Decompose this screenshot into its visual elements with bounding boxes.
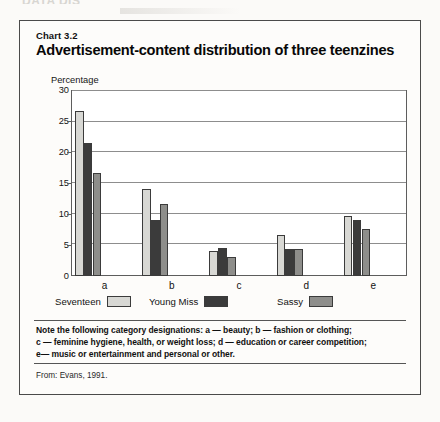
y-axis-tick-label: 25 — [43, 116, 69, 126]
bar-c-sassy — [227, 257, 236, 276]
chart-number-label: Chart 3.2 — [36, 30, 78, 41]
note-divider-bottom — [34, 363, 406, 364]
bar-e-young-miss — [353, 220, 362, 276]
legend-label: Young Miss — [149, 296, 198, 307]
bar-d-seventeen — [277, 235, 286, 276]
bar-c-young-miss — [218, 248, 227, 276]
bar-group: d — [277, 90, 336, 276]
bar-e-sassy — [362, 229, 371, 276]
legend-item-sassy: Sassy — [277, 296, 333, 307]
note-line: Note the following category designations… — [36, 324, 408, 336]
note-line: c — feminine hygiene, health, or weight … — [36, 336, 408, 348]
note-block: Note the following category designations… — [36, 324, 408, 360]
y-axis-tick-label: 20 — [43, 147, 69, 157]
page-title: Advertisement-content distribution of th… — [36, 42, 394, 58]
x-axis-category-label: a — [75, 276, 134, 291]
note-line: e— music or entertainment and personal o… — [36, 348, 408, 360]
y-axis-tick-label: 15 — [43, 178, 69, 188]
bar-b-sassy — [160, 204, 169, 276]
bar-group: c — [209, 90, 268, 276]
x-axis-category-label: c — [209, 276, 268, 291]
x-axis-category-label: e — [344, 276, 403, 291]
y-axis-tick-label: 10 — [43, 209, 69, 219]
bars-layer: abcde — [71, 90, 407, 276]
legend-item-young-miss: Young Miss — [149, 296, 228, 307]
bar-a-sassy — [93, 173, 102, 276]
x-axis-category-label: d — [277, 276, 336, 291]
bar-group: e — [344, 90, 403, 276]
bar-c-seventeen — [209, 251, 218, 276]
y-axis-title: Percentage — [51, 75, 99, 85]
legend-swatch — [204, 296, 228, 307]
chart-plot-wrapper: 051015202530 abcde — [37, 87, 407, 279]
scan-bleed-text: DATA DIS — [22, 0, 80, 4]
legend-label: Sassy — [277, 296, 303, 307]
y-axis-tick-label: 30 — [43, 85, 69, 95]
chart-legend: SeventeenYoung MissSassy — [37, 296, 405, 312]
bar-d-young-miss — [285, 249, 294, 276]
bar-e-seventeen — [344, 216, 353, 276]
source-citation: From: Evans, 1991. — [36, 371, 107, 380]
bar-a-seventeen — [75, 111, 84, 276]
legend-label: Seventeen — [55, 296, 101, 307]
bar-group: a — [75, 90, 134, 276]
bar-a-young-miss — [84, 143, 93, 276]
x-axis-category-label: b — [142, 276, 201, 291]
legend-item-seventeen: Seventeen — [55, 296, 131, 307]
y-axis-tick-label: 0 — [43, 271, 69, 281]
figure-container: Chart 3.2 Advertisement-content distribu… — [19, 20, 421, 395]
bar-b-young-miss — [151, 220, 160, 276]
scan-bleed-smudge — [120, 8, 240, 14]
bar-b-seventeen — [142, 189, 151, 276]
note-divider-top — [34, 320, 406, 321]
legend-swatch — [107, 296, 131, 307]
bar-d-sassy — [294, 249, 303, 276]
y-axis-tick-label: 5 — [43, 240, 69, 250]
legend-swatch — [309, 296, 333, 307]
bar-group: b — [142, 90, 201, 276]
